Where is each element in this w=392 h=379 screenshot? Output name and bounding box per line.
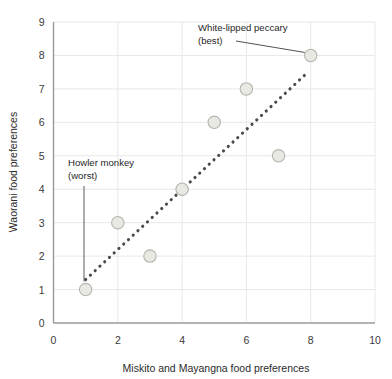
data-point-marker (144, 250, 156, 262)
data-point-marker (176, 183, 188, 195)
scatter-chart: 0123456789 0246810 White-lipped peccary … (0, 0, 392, 379)
y-tick-label: 6 (39, 116, 45, 128)
y-tick-label: 8 (39, 49, 45, 61)
annotation-peccary-line2: (best) (198, 35, 223, 46)
x-tick-label: 2 (115, 334, 121, 346)
plot-canvas: 0123456789 0246810 White-lipped peccary … (0, 0, 392, 379)
y-tick-label: 4 (39, 183, 45, 195)
annotation-howler-line2: (worst) (68, 170, 97, 181)
y-tick-label: 3 (39, 217, 45, 229)
x-axis-title: Miskito and Mayangna food preferences (123, 362, 310, 374)
annotation-peccary-line1: White-lipped peccary (198, 22, 288, 33)
x-tick-label: 0 (51, 334, 57, 346)
y-tick-label: 7 (39, 83, 45, 95)
y-tick-label: 0 (39, 317, 45, 329)
x-tick-label: 6 (243, 334, 249, 346)
data-point-marker (240, 83, 252, 95)
y-tick-label: 5 (39, 150, 45, 162)
x-tick-label: 8 (308, 334, 314, 346)
data-point-marker (79, 283, 91, 295)
x-tick-label: 4 (179, 334, 185, 346)
data-point-marker (305, 49, 317, 61)
annotation-howler-line1: Howler monkey (68, 157, 134, 168)
y-tick-label: 9 (39, 16, 45, 28)
data-point-marker (272, 150, 284, 162)
x-tick-label: 10 (369, 334, 381, 346)
y-tick-label: 2 (39, 250, 45, 262)
data-point-marker (112, 216, 124, 228)
y-tick-label: 1 (39, 284, 45, 296)
data-point-marker (208, 116, 220, 128)
y-axis-title: Waorani food preferences (7, 112, 19, 232)
